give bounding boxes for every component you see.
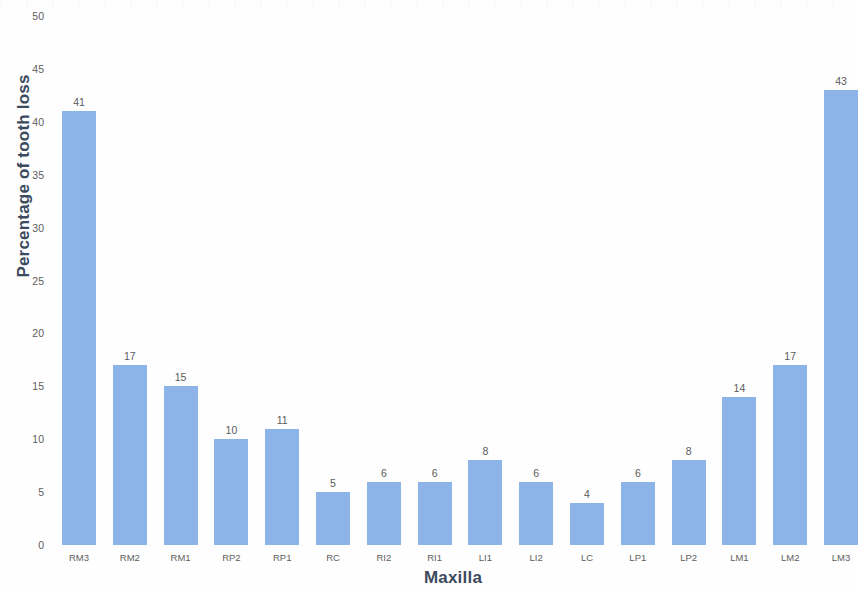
bar-rp2[interactable] — [214, 439, 248, 545]
y-axis-tick-labels: 05101520253035404550 — [0, 0, 52, 593]
bar-value-label: 17 — [761, 350, 819, 362]
bar-value-label: 4 — [558, 488, 616, 500]
x-axis-title: Maxilla — [53, 568, 853, 588]
bar-lm1[interactable] — [722, 397, 756, 545]
bar-rp1[interactable] — [265, 429, 299, 545]
bar-rm1[interactable] — [164, 386, 198, 545]
bar-ri2[interactable] — [367, 482, 401, 545]
bar-rm3[interactable] — [62, 111, 96, 545]
bar-value-label: 15 — [152, 371, 210, 383]
y-axis-tick-45: 45 — [4, 63, 44, 75]
bar-rm2[interactable] — [113, 365, 147, 545]
bar-rc[interactable] — [316, 492, 350, 545]
bar-value-label: 6 — [609, 467, 667, 479]
bar-lp1[interactable] — [621, 482, 655, 545]
y-axis-tick-30: 30 — [4, 222, 44, 234]
bar-lc[interactable] — [570, 503, 604, 545]
y-axis-tick-15: 15 — [4, 380, 44, 392]
bar-value-label: 5 — [304, 477, 362, 489]
bar-value-label: 6 — [507, 467, 565, 479]
plot-area: 41RM317RM215RM110RP211RP15RC6RI26RI18LI1… — [53, 0, 853, 593]
x-axis-tick-lm3: LM3 — [811, 552, 862, 563]
bars-layer: 41RM317RM215RM110RP211RP15RC6RI26RI18LI1… — [53, 0, 853, 593]
bar-value-label: 14 — [710, 382, 768, 394]
y-axis-tick-5: 5 — [4, 486, 44, 498]
bar-li1[interactable] — [468, 460, 502, 545]
bar-value-label: 43 — [812, 75, 862, 87]
bar-value-label: 10 — [202, 424, 260, 436]
y-axis-tick-50: 50 — [4, 10, 44, 22]
bar-value-label: 17 — [101, 350, 159, 362]
y-axis-tick-20: 20 — [4, 327, 44, 339]
bar-value-label: 8 — [660, 445, 718, 457]
bar-li2[interactable] — [519, 482, 553, 545]
bar-value-label: 6 — [406, 467, 464, 479]
bar-lp2[interactable] — [672, 460, 706, 545]
bar-value-label: 41 — [50, 96, 108, 108]
y-axis-tick-40: 40 — [4, 116, 44, 128]
bar-value-label: 8 — [456, 445, 514, 457]
bar-lm3[interactable] — [824, 90, 858, 545]
y-axis-tick-10: 10 — [4, 433, 44, 445]
bar-lm2[interactable] — [773, 365, 807, 545]
y-axis-tick-35: 35 — [4, 169, 44, 181]
bar-value-label: 6 — [355, 467, 413, 479]
bar-value-label: 11 — [253, 414, 311, 426]
y-axis-tick-0: 0 — [4, 539, 44, 551]
bar-ri1[interactable] — [418, 482, 452, 545]
y-axis-tick-25: 25 — [4, 275, 44, 287]
